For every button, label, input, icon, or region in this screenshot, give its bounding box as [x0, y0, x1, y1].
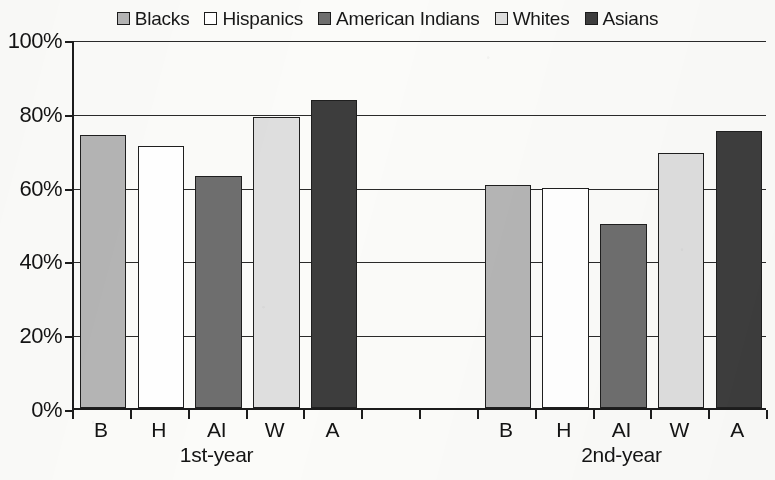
x-axis-group-labels: 1st-year2nd-year [72, 443, 766, 473]
x-axis-label-2nd-year-W: W [669, 418, 689, 442]
x-axis-label-1st-year-AI: AI [207, 418, 226, 442]
x-axis-label-1st-year-A: A [325, 418, 339, 442]
y-axis-tick-label: 20% [0, 323, 62, 349]
x-axis-label-1st-year-H: H [151, 418, 166, 442]
y-axis-tick-label: 0% [0, 397, 62, 423]
legend-item-label: Hispanics [222, 9, 303, 28]
y-axis-tick-label: 80% [0, 102, 62, 128]
y-axis-tick-label: 60% [0, 176, 62, 202]
legend-swatch-icon [585, 12, 598, 25]
x-axis-tick [766, 410, 768, 419]
legend-item-label: American Indians [336, 9, 480, 28]
y-axis-tick-label: 40% [0, 249, 62, 275]
legend-item-label: Blacks [135, 9, 190, 28]
legend-item: Asians [585, 9, 659, 28]
group-label-2nd-year: 2nd-year [581, 443, 661, 467]
x-axis-label-2nd-year-B: B [499, 418, 513, 442]
y-axis-labels: 0%20%40%60%80%100% [0, 41, 775, 410]
legend-item-label: Whites [513, 9, 570, 28]
y-axis-tick-label: 100% [0, 28, 62, 54]
legend-swatch-icon [117, 12, 130, 25]
legend-swatch-icon [318, 12, 331, 25]
legend-item: Hispanics [204, 9, 303, 28]
chart-legend: BlacksHispanicsAmerican IndiansWhitesAsi… [0, 6, 775, 30]
x-axis-label-2nd-year-AI: AI [612, 418, 631, 442]
x-axis-label-1st-year-W: W [265, 418, 285, 442]
x-axis-label-2nd-year-H: H [556, 418, 571, 442]
x-axis-label-2nd-year-A: A [730, 418, 744, 442]
legend-item: Whites [495, 9, 570, 28]
legend-swatch-icon [495, 12, 508, 25]
legend-swatch-icon [204, 12, 217, 25]
legend-item: Blacks [117, 9, 190, 28]
legend-item: American Indians [318, 9, 480, 28]
x-axis-label-1st-year-B: B [94, 418, 108, 442]
legend-item-label: Asians [603, 9, 659, 28]
group-label-1st-year: 1st-year [180, 443, 253, 467]
